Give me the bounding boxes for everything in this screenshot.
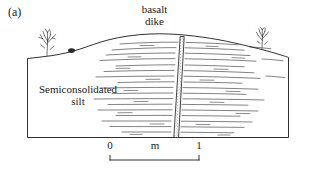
silt-unit-line-2: silt <box>24 96 132 108</box>
dike-title-line-2: dike <box>0 16 309 28</box>
scale-label-unit: m <box>145 140 165 152</box>
shrub-icon-left <box>68 48 75 53</box>
scale-label-end: 1 <box>189 140 209 152</box>
tree-icon-right <box>256 27 268 48</box>
tree-icon-left <box>39 29 56 56</box>
scale-label-start: 0 <box>100 140 120 152</box>
dike-body <box>174 36 184 137</box>
silt-unit-label: Semiconsolidated silt <box>24 84 132 108</box>
dike-title-label: basalt dike <box>0 4 309 28</box>
geologic-cross-section-figure: (a) basalt dike Semiconsolidated silt 0 … <box>0 0 309 174</box>
basalt-dike <box>174 36 184 137</box>
ground-surface-profile <box>28 34 289 59</box>
scale-bar <box>110 156 199 161</box>
